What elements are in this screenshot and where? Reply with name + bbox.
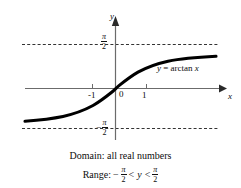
range-prefix: Range:: [83, 169, 111, 180]
x-tick-label-one: 1: [142, 91, 147, 100]
y-axis-label: y: [110, 12, 114, 21]
x-tick-label-zero: 0: [119, 90, 124, 99]
fraction-numerator: π: [101, 33, 107, 42]
curve-equation-label: y = arctan x: [157, 64, 199, 73]
range-less-than-first: <: [129, 169, 135, 180]
domain-caption: Domain: all real numbers: [0, 150, 241, 161]
range-variable: y: [137, 169, 141, 180]
fraction-denominator: 2: [122, 175, 126, 184]
fraction-pi-over-two-negative: π 2: [102, 119, 108, 137]
fraction-numerator: π: [152, 166, 158, 175]
fraction-denominator: 2: [102, 42, 106, 51]
range-less-than-second: <: [145, 169, 151, 180]
range-fraction-lower: π 2: [121, 166, 127, 184]
y-tick-label-negative-pi-over-two: − π 2: [96, 119, 108, 137]
range-expression: Range: − π 2 < y < π 2: [83, 166, 159, 184]
arctan-graph-figure: y x -1 0 1 π 2 − π 2 y = arctan x Domain…: [0, 0, 241, 188]
x-axis-arrowhead: [219, 85, 227, 93]
fraction-denominator: 2: [103, 128, 107, 137]
equation-equals: =: [163, 63, 168, 73]
minus-sign: −: [96, 123, 101, 132]
range-fraction-upper: π 2: [152, 166, 158, 184]
equation-function: arctan: [171, 63, 193, 73]
equation-y: y: [157, 63, 161, 73]
fraction-numerator: π: [121, 166, 127, 175]
fraction-pi-over-two: π 2: [101, 33, 107, 51]
fraction-denominator: 2: [153, 175, 157, 184]
y-tick-label-pi-over-two: π 2: [101, 33, 107, 51]
fraction-numerator: π: [102, 119, 108, 128]
equation-x: x: [195, 63, 199, 73]
x-tick-label-neg-one: -1: [88, 91, 96, 100]
range-caption: Range: − π 2 < y < π 2: [0, 166, 241, 184]
x-axis-label: x: [228, 92, 232, 101]
range-minus-sign: −: [113, 169, 119, 180]
